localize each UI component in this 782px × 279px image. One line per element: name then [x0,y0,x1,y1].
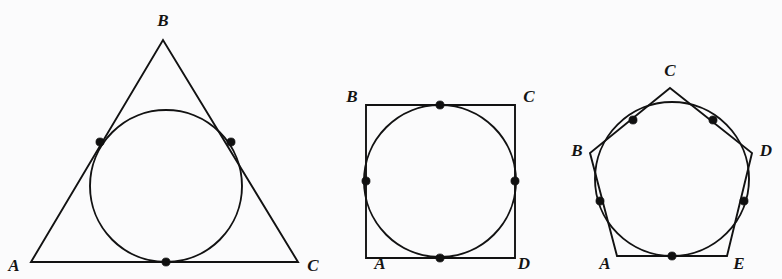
vertex-label-b: B [345,87,357,106]
inscribed-circle [90,110,242,262]
geometry-canvas: ABCBCADCDEAB [0,0,782,279]
vertex-label-c: C [307,256,319,275]
tangent-point-dot [436,254,444,262]
tangent-point-dot [511,177,519,185]
triangle-with-inscribed-circle: ABC [7,11,319,275]
inscribed-circle [595,102,749,256]
tangent-point-dot [596,197,604,205]
tangent-point-dot [362,177,370,185]
vertex-label-c: C [664,61,676,80]
vertex-label-c: C [523,87,535,106]
tangent-point-dot [436,101,444,109]
tangent-point-dot [96,138,104,146]
vertex-label-a: A [373,254,385,273]
tangent-point-dot [740,197,748,205]
triangle-outline [31,40,298,262]
tangent-point-dot [227,138,235,146]
vertex-label-b: B [156,11,168,30]
tangent-point-dot [709,116,717,124]
vertex-label-a: A [7,256,19,275]
tangent-point-dot [629,116,637,124]
square-with-inscribed-circle: BCAD [345,87,535,273]
figure-sheet: ABCBCADCDEAB [0,0,782,279]
vertex-label-e: E [732,254,744,273]
vertex-label-d: D [517,254,530,273]
vertex-label-d: D [759,141,772,160]
vertex-label-a: A [598,254,610,273]
vertex-label-b: B [570,141,582,160]
tangent-point-dot [668,252,676,260]
inscribed-circle [364,105,516,257]
tangent-point-dot [162,258,170,266]
pentagon-with-inscribed-circle: CDEAB [570,61,772,273]
